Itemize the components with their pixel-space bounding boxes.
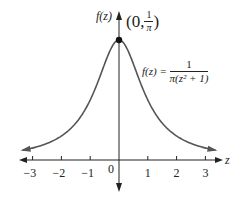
x-tick-label: 0 [108,163,114,175]
formula-denominator: π(z² + 1) [170,72,209,84]
x-tick-label: −1 [81,167,94,179]
peak-point [116,37,122,43]
x-tick-label: −2 [52,167,65,179]
peak-annotation: (0, 1 π ) [126,10,159,33]
x-axis-label: z [225,154,230,166]
curve-left-arrow-icon [21,146,31,152]
formula-lhs: f(z) = [142,65,167,77]
x-tick-label: −3 [24,167,37,179]
x-tick-label: 2 [174,167,180,179]
function-formula: f(z) = 1 π(z² + 1) [142,59,208,84]
x-tick-label: 3 [202,167,208,179]
x-axis-left-arrow-icon [19,157,27,163]
peak-annotation-open: (0, [126,12,144,31]
x-axis-right-arrow-icon [215,157,223,163]
x-tick-label: 1 [145,167,151,179]
y-axis-down-arrow-icon [116,183,122,192]
y-axis-label: f(z) [96,10,112,22]
formula-fraction: 1 π(z² + 1) [170,59,209,84]
formula-numerator: 1 [170,59,209,72]
x-axis [19,156,223,163]
y-axis-up-arrow-icon [116,11,122,20]
peak-annotation-close: ) [153,12,159,31]
curve-right-arrow-icon [207,146,217,152]
